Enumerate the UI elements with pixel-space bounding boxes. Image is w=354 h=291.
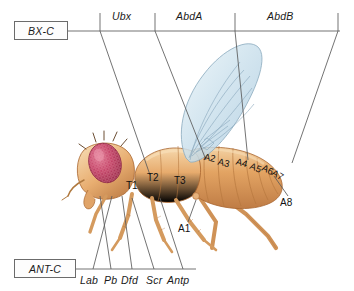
bxc-cluster-box: BX-C [14, 21, 68, 40]
gene-label-abda: AbdA [176, 10, 203, 22]
fly-legs-front [90, 194, 216, 252]
bxc-leader-end [292, 31, 338, 163]
gene-label-lab: Lab [80, 274, 98, 286]
a1-pointer [188, 200, 196, 222]
gene-label-scr: Scr [146, 274, 162, 286]
figure-canvas: BX-C Ubx AbdA AbdB ANT-C Lab Pb Dfd Scr … [0, 0, 354, 291]
gene-label-abdb: AbdB [267, 10, 294, 22]
gene-label-pb: Pb [104, 274, 117, 286]
fly-wing [181, 44, 262, 162]
fly-diagram-svg [0, 0, 354, 291]
antc-cluster-box: ANT-C [14, 259, 76, 278]
fly-haltere [193, 193, 200, 200]
gene-label-dfd: Dfd [121, 274, 138, 286]
segment-label-t3: T3 [174, 175, 186, 186]
segment-label-a2: A2 [203, 151, 217, 164]
segment-label-t2: T2 [147, 172, 159, 183]
segment-label-a8: A8 [280, 197, 292, 208]
segment-label-a1: A1 [178, 223, 190, 234]
segment-label-t1: T1 [126, 180, 138, 191]
antc-leader-3 [132, 198, 154, 269]
gene-label-ubx: Ubx [112, 10, 131, 22]
gene-label-antp: Antp [167, 274, 189, 286]
